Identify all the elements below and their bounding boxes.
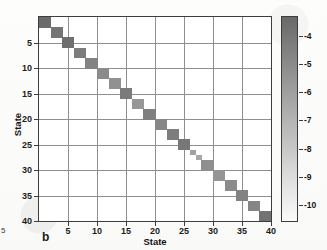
colorbar-tick [299,149,303,150]
y-tick-label: 25 [22,140,32,150]
colorbar-gradient [282,17,297,221]
x-tick-label: 20 [150,226,160,236]
y-tick-label: 40 [22,216,32,226]
y-tick-label: 5 [27,38,32,48]
colorbar-tick-label: -7 [304,115,312,125]
panel-label-b: b [42,230,49,244]
y-tick [34,119,38,120]
heatmap-block [97,68,109,79]
x-tick-label: 5 [65,226,70,236]
x-axis-label: State [38,236,272,247]
x-tick-label: 15 [121,226,131,236]
figure-page: 5 State State log covariance b 510152025… [0,0,327,250]
colorbar-tick-label: -6 [304,87,312,97]
heatmap-block [225,180,237,191]
y-tick [34,170,38,171]
adjacent-panel-tick-fragment: 5 [1,226,5,235]
heatmap-block [155,119,167,130]
colorbar-tick [299,205,303,206]
heatmap-block [109,78,121,89]
heatmap-block [39,17,51,28]
colorbar-tick [299,36,303,37]
colorbar-tick-label: -9 [304,172,312,182]
x-tick-label: 35 [237,226,247,236]
x-tick-label: 30 [208,226,218,236]
colorbar-tick [299,177,303,178]
colorbar-tick-label: -8 [304,144,312,154]
y-tick-label: 20 [22,114,32,124]
heatmap-block [51,27,63,38]
colorbar-tick [299,64,303,65]
y-tick-label: 35 [22,191,32,201]
heatmap-block [236,190,248,201]
y-tick [34,68,38,69]
x-tick-label: 40 [266,226,276,236]
x-tick-label: 25 [179,226,189,236]
heatmap-block [167,129,179,140]
heatmap-block [178,139,190,150]
y-tick [34,145,38,146]
y-tick-label: 10 [22,63,32,73]
heatmap-block [62,37,74,48]
heatmap-block [120,88,132,99]
heatmap-block [259,211,271,222]
heatmap-cells-layer [39,17,271,221]
colorbar-tick [299,120,303,121]
y-tick-label: 30 [22,165,32,175]
heatmap-block [213,170,225,181]
heatmap-plot-area [38,16,272,222]
y-tick [34,94,38,95]
heatmap-block [201,160,213,171]
heatmap-block [248,201,260,212]
colorbar [281,16,298,222]
colorbar-tick-label: -5 [304,59,312,69]
y-tick [34,221,38,222]
heatmap-block [74,48,86,59]
colorbar-tick-label: -10 [304,200,316,210]
colorbar-tick-label: -4 [304,31,312,41]
y-tick [34,196,38,197]
y-tick [34,43,38,44]
colorbar-tick [299,92,303,93]
heatmap-block [132,99,144,110]
heatmap-block [143,109,155,120]
gridline-vertical [271,17,272,221]
heatmap-block [85,58,97,69]
y-tick-label: 15 [22,89,32,99]
x-tick-label: 10 [92,226,102,236]
y-axis-label: State [12,95,23,155]
